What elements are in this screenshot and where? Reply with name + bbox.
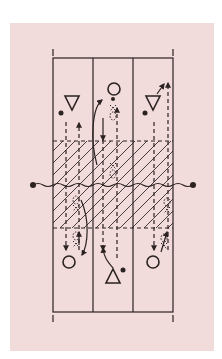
player-top-left-triangle	[65, 96, 79, 110]
ball-icon	[59, 111, 64, 116]
player-bottom-right-circle	[147, 256, 159, 268]
player-bottom-left-circle	[63, 256, 75, 268]
ball-icon	[121, 268, 126, 273]
player-bottom-center-triangle	[106, 269, 120, 283]
court-diagram	[0, 0, 222, 359]
ball-icon	[143, 111, 148, 116]
ball-icon	[111, 97, 115, 101]
net-post-right	[190, 182, 196, 188]
net-post-left	[30, 182, 36, 188]
player-top-right-triangle	[146, 96, 160, 110]
player-top-center-circle	[108, 83, 120, 95]
